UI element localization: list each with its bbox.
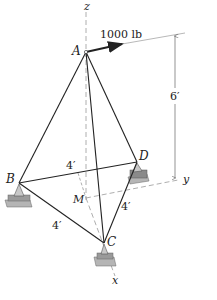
y-axis-label: y [182,173,190,186]
member-ac [86,52,104,243]
tripod-diagram: 6′ 1000 lb A B D C M z y x 4′ 4′ 4′ [0,0,217,300]
point-d-label: D [138,149,149,163]
z-axis-label: z [83,0,90,13]
point-b-label: B [5,172,15,186]
support-d [128,163,149,184]
member-ad [86,52,137,162]
members [19,52,137,243]
force-label: 1000 lb [100,28,142,41]
x-axis-label: x [112,274,119,287]
point-a-label: A [71,44,81,58]
height-dimension-label: 6′ [170,90,180,103]
member-bc [19,183,104,243]
point-m-label: M [72,193,85,206]
axes [78,12,178,276]
cd-length-label: 4′ [121,200,131,213]
member-ab [19,52,86,183]
point-c-label: C [107,235,116,249]
bd-length-label: 4′ [66,159,76,172]
force-arrow [86,44,122,52]
member-bd [19,162,137,183]
bc-length-label: 4′ [52,219,62,232]
joint-a [84,50,87,53]
support-b [5,184,32,207]
